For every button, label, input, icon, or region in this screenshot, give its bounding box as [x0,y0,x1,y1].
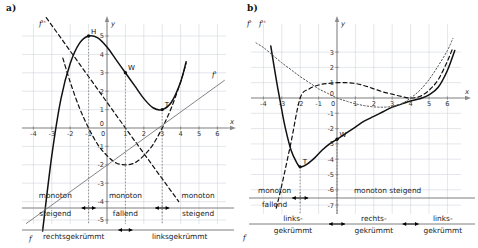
curvature-label-1: linksgekrümmt [152,232,208,241]
x-tick-label-10: 6 [445,100,449,108]
monotony-label-0-line2: fallend [262,200,287,209]
x-tick-label-7: 3 [160,130,164,138]
x-tick-label-3: -1 [85,130,92,138]
y-tick-label-8: -3 [97,180,104,188]
point-label-h: H [91,28,96,36]
x-tick-label-4: 0 [331,100,335,108]
y-tick-label-4: 1 [100,106,104,114]
curve-label-f-double-prime: f'' [38,19,46,28]
y-tick-label-4: -1 [327,110,334,118]
y-tick-label-0: 3 [330,49,334,57]
y-tick-label-10: -5 [97,216,104,224]
monotony-label-0-line1: monoton [258,186,291,195]
monotony-annotation-group: monotonfallendmonoton steigend [249,186,475,209]
monotony-label-1-line1: monoton [109,191,142,200]
figure-root: a) xy-4-3-2-1012345654321-1-2-3-4-50HWTf… [0,0,478,248]
monotony-arrowhead-right-0 [305,196,309,200]
monotony-label-2-line1: monoton [182,191,215,200]
points-group: TW [299,131,347,214]
x-axis-name: x [229,118,235,126]
curvature-annotation-group: links-gekrümmtrechts-gekrümmtlinks-gekrü… [249,214,475,235]
monotony-arrowhead-left-0 [292,196,296,200]
curvature-arrowhead-left-1 [403,222,407,226]
y-tick-label-8: -5 [327,171,334,179]
x-tick-label-9: 5 [197,130,201,138]
monotony-arrowhead-left-0 [82,206,86,210]
point-w [124,71,127,74]
point-t [161,108,164,111]
x-axis-arrow [230,126,236,130]
y-axis-name: y [340,20,346,28]
y-tick-label-5: -2 [327,125,334,133]
x-tick-label-4: 0 [101,130,105,138]
y-tick-label-7: -4 [327,156,334,164]
y-tick-label-1: 2 [330,64,334,72]
y-tick-label-6: -1 [97,143,104,151]
x-tick-label-10: 6 [215,130,219,138]
y-tick-label-9: -6 [327,186,334,194]
chart-b: xy-4-3-2-10123456321-1-2-3-4-5-6-70TWf'f… [239,0,478,248]
monotony-label-0-line1: monoton [39,191,72,200]
x-tick-label-8: 4 [178,130,182,138]
curvature-annotation-group: rechtsgekrümmtlinksgekrümmt [22,228,234,241]
point-w [335,138,338,141]
curvature-label-1-line2: gekrümmt [355,226,394,235]
axes-group: xy [251,16,471,214]
point-label-w: W [128,64,135,72]
panel-b: b) xy-4-3-2-10123456321-1-2-3-4-5-6-70TW… [239,0,478,248]
curvature-label-2-line2: gekrümmt [424,226,463,235]
monotony-label-1-line2: fallend [113,209,138,218]
monotony-arrowhead-left-1 [155,206,159,210]
curvature-arrowhead-left-0 [329,222,333,226]
x-tick-label-9: 5 [427,100,431,108]
y-tick-label-10: -7 [327,202,334,210]
curvature-arrowhead-right-1 [415,222,419,226]
y-tick-label-9: -4 [97,198,104,206]
curvature-arrowhead-left-0 [118,228,122,232]
monotony-annotation-group: monotonsteigendmonotonfallendmonotonstei… [22,191,234,218]
curve-label-f-prime: f' [246,19,252,28]
monotony-label-2-line2: steigend [182,209,214,218]
x-tick-label-3: -1 [315,100,322,108]
y-axis-name: y [110,20,116,28]
curvature-label-1-line1: rechts- [361,214,387,223]
curvature-label-0-line1: links- [283,214,303,223]
monotony-arrowhead-right-0 [92,206,96,210]
y-axis-arrow [105,16,109,22]
x-tick-label-6: 2 [142,130,146,138]
x-axis-name: x [464,88,470,96]
curvature-label-2-line1: links- [433,214,453,223]
panel-a: a) xy-4-3-2-1012345654321-1-2-3-4-50HWTf… [0,0,239,248]
point-h [87,34,90,37]
x-tick-label-0: -4 [30,130,37,138]
chart-a: xy-4-3-2-1012345654321-1-2-3-4-50HWTf''f… [0,0,239,248]
curvature-label-0-line2: gekrümmt [274,226,313,235]
point-t [299,165,302,168]
x-tick-label-2: -2 [67,130,74,138]
curve-label-f: f [28,234,33,243]
curve-label-f-prime: f' [211,70,217,79]
curve-label-f: f [242,233,247,242]
curvature-arrowhead-right-0 [129,228,133,232]
y-tick-label-zero: 0 [100,120,104,128]
y-tick-label-1: 4 [100,51,104,59]
monotony-label-0-line2: steigend [39,209,71,218]
point-label-t: T [164,101,170,109]
monotony-label-1-line1: monoton steigend [354,186,422,195]
curve-f- [276,48,453,209]
y-axis-arrow [335,16,339,22]
x-axis-arrow [465,96,471,100]
x-tick-label-0: -4 [260,100,267,108]
point-label-t: T [302,158,308,166]
curve-label-f-double-prime: f'' [258,19,266,28]
curvature-label-0: rechtsgekrümmt [43,232,105,241]
y-tick-label-2: 3 [100,69,104,77]
monotony-arrowhead-right-1 [166,206,170,210]
curvature-arrowhead-right-0 [341,222,345,226]
point-label-w: W [340,131,347,139]
